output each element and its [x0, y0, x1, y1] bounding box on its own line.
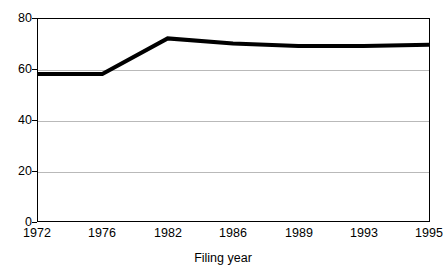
y-tick-label-60: 60 [2, 63, 32, 75]
y-tick-mark-80 [32, 18, 37, 19]
y-tick-label-80: 80 [2, 12, 32, 24]
x-tick-label-1982: 1982 [145, 227, 191, 240]
y-tick-mark-0 [32, 222, 37, 223]
y-tick-mark-60 [32, 69, 37, 70]
y-tick-mark-20 [32, 171, 37, 172]
x-tick-label-1972: 1972 [14, 227, 60, 240]
x-axis-title: Filing year [0, 251, 446, 265]
line-chart: 80 60 40 20 0 1972 1976 1982 1986 1989 1… [0, 0, 446, 275]
x-tick-label-1976: 1976 [79, 227, 125, 240]
x-tick-label-1993: 1993 [341, 227, 387, 240]
y-tick-mark-40 [32, 120, 37, 121]
y-tick-label-20: 20 [2, 165, 32, 177]
y-tick-label-40: 40 [2, 114, 32, 126]
x-tick-label-1986: 1986 [210, 227, 256, 240]
x-tick-label-1995: 1995 [406, 227, 446, 240]
x-tick-label-1989: 1989 [276, 227, 322, 240]
